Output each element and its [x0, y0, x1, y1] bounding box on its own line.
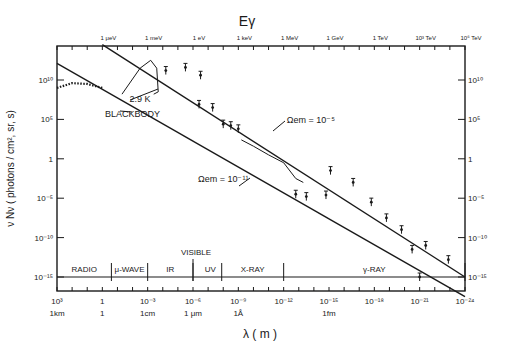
chart: RADIOμ-WAVEIRUVX-RAYγ-RAYVISIBLE 10¹⁰10¹…: [0, 0, 505, 350]
data-point: [199, 74, 202, 77]
y-tick-label-left: 10⁻¹⁰: [34, 234, 53, 243]
band-label: IR: [166, 265, 174, 274]
top-tick-label: 1 μeV: [100, 35, 116, 41]
x-unit-label: 1fm: [322, 309, 336, 318]
x-axis-label: λ ( m ): [243, 327, 277, 341]
measurement-point: [410, 245, 414, 253]
data-point: [385, 217, 388, 220]
y-tick-label-right: 10⁻¹⁰: [468, 234, 487, 243]
measurement-point: [183, 63, 187, 71]
top-tick-label: 10⁶ TeV: [460, 35, 481, 41]
x-unit-label: 1cm: [140, 309, 155, 318]
x-tick-label: 1: [100, 297, 105, 306]
band-label: UV: [205, 265, 217, 274]
y-axis-label: ν Nν ( photons / cm², sr, s): [5, 110, 16, 227]
measurement-point: [351, 178, 355, 186]
x-tick-label: 10⁻²¹: [411, 297, 430, 306]
measurement-point: [384, 214, 388, 222]
data-point: [229, 124, 232, 127]
y-tick-label-right: 10⁻¹⁵: [468, 273, 487, 282]
band-label: γ-RAY: [363, 265, 386, 274]
top-tick-label: 1 MeV: [281, 35, 298, 41]
y-tick-label-left: 10¹⁰: [38, 76, 53, 85]
x-tick-label: 10⁻³: [140, 297, 156, 306]
x-tick-label: 10⁻⁹: [230, 297, 246, 306]
x-tick-label: 10⁻¹²: [275, 297, 294, 306]
y-tick-label-right: 10⁻⁵: [468, 194, 484, 203]
data-point: [400, 228, 403, 231]
measurement-point: [304, 193, 308, 201]
data-point: [294, 193, 297, 196]
x-tick-label: 10⁻²⁴: [456, 297, 476, 306]
x-tick-label: 10⁻⁶: [185, 297, 201, 306]
band-label: μ-WAVE: [115, 265, 145, 274]
measurement-point: [164, 67, 168, 75]
chart-title: Eγ: [239, 13, 255, 29]
data-point: [184, 66, 187, 69]
omega5-pointer: [273, 121, 285, 131]
measurement-point: [446, 256, 450, 264]
measurement-point: [294, 190, 298, 198]
y-tick-label-left: 10⁻⁵: [37, 194, 53, 203]
measurement-point: [236, 125, 240, 133]
x-unit-label: 1: [100, 309, 105, 318]
plot-frame: [57, 46, 465, 291]
series--em-10-: [57, 63, 465, 296]
y-tick-label-right: 10¹⁰: [468, 76, 483, 85]
measurement-point: [199, 71, 203, 79]
data-point: [325, 194, 328, 197]
annotation: BLACKBODY: [105, 109, 160, 119]
measurement-point: [211, 104, 215, 112]
band-label: X-RAY: [241, 265, 266, 274]
y-tick-label-right: 1: [468, 155, 473, 164]
data-point: [211, 106, 214, 109]
data-point: [164, 69, 167, 72]
measurement-point: [424, 241, 428, 249]
data-point: [329, 169, 332, 172]
y-tick-label-left: 10⁵: [41, 115, 53, 124]
x-tick-label: 10³: [51, 297, 63, 306]
top-tick-label: 1 GeV: [326, 35, 343, 41]
measurement-point: [400, 226, 404, 234]
series-radio-background: [57, 83, 102, 88]
x-unit-label: 1km: [49, 309, 64, 318]
x-tick-label: 10⁻¹⁸: [365, 297, 384, 306]
top-tick-label: 1 meV: [145, 35, 162, 41]
x-tick-label: 10⁻¹⁵: [320, 297, 339, 306]
data-point: [222, 123, 225, 126]
data-point: [305, 195, 308, 198]
x-unit-label: 1 μm: [184, 309, 202, 318]
band-label: RADIO: [72, 265, 97, 274]
top-tick-label: 1 keV: [237, 35, 252, 41]
x-unit-label: 1Å: [233, 309, 243, 318]
measurement-point: [324, 191, 328, 199]
top-tick-label: 10³ TeV: [415, 35, 436, 41]
y-tick-label-left: 1: [49, 155, 54, 164]
visible-label: VISIBLE: [181, 248, 211, 257]
series--em-10-: [102, 45, 465, 277]
y-tick-label-right: 10⁵: [468, 115, 480, 124]
data-point: [237, 127, 240, 130]
data-point: [352, 181, 355, 184]
y-tick-label-left: 10⁻¹⁵: [34, 273, 53, 282]
data-point: [447, 258, 450, 261]
annotation: Ωem = 10⁻⁵: [287, 115, 335, 125]
series-diffuse-x-ray: [241, 140, 303, 183]
measurement-point: [329, 167, 333, 175]
top-tick-label: 1 TeV: [373, 35, 388, 41]
data-point: [198, 103, 201, 106]
data-point: [370, 201, 373, 204]
annotation: Ωem = 10⁻¹¹: [198, 174, 249, 184]
data-point: [411, 248, 414, 251]
measurement-point: [369, 198, 373, 206]
data-point: [424, 244, 427, 247]
top-tick-label: 1 eV: [193, 35, 205, 41]
